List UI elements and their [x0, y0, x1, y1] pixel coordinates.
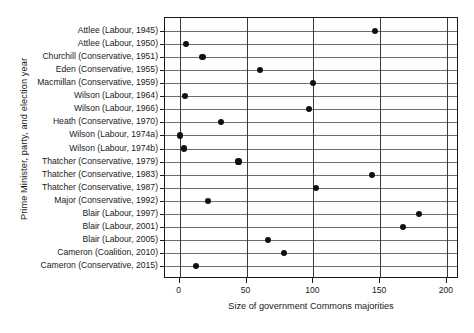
x-axis-tick-labels: 050100150200 [164, 285, 458, 299]
y-axis-tick [160, 122, 165, 123]
category-label: Heath (Conservative, 1970) [0, 116, 158, 126]
x-axis-tick [312, 278, 313, 283]
category-label: Major (Conservative, 1992) [0, 195, 158, 205]
y-axis-tick [160, 57, 165, 58]
category-label: Blair (Labour, 2001) [0, 221, 158, 231]
row-rule [165, 122, 457, 123]
row-rule [165, 70, 457, 71]
y-axis-tick [160, 44, 165, 45]
x-axis-tick-label: 50 [241, 285, 251, 295]
category-label: Wilson (Labour, 1966) [0, 103, 158, 113]
category-label: Cameron (Conservative, 2015) [0, 260, 158, 270]
y-axis-tick [160, 109, 165, 110]
data-point [416, 211, 422, 217]
y-axis-tick [160, 96, 165, 97]
y-axis-tick [160, 214, 165, 215]
x-axis-tick-label: 150 [372, 285, 386, 295]
row-rule [165, 240, 457, 241]
x-axis-tick-label: 200 [439, 285, 453, 295]
x-axis-tick-label: 100 [305, 285, 319, 295]
row-rule [165, 188, 457, 189]
x-axis-tick [179, 278, 180, 283]
category-label: Blair (Labour, 2005) [0, 234, 158, 244]
category-label: Wilson (Labour, 1974b) [0, 143, 158, 153]
data-point [313, 185, 319, 191]
y-axis-tick [160, 253, 165, 254]
row-rule [165, 253, 457, 254]
data-point [183, 41, 189, 47]
row-rule [165, 214, 457, 215]
row-rule [165, 135, 457, 136]
x-gridline [247, 18, 248, 277]
y-axis-tick [160, 188, 165, 189]
x-axis-tick [379, 278, 380, 283]
data-point [400, 224, 406, 230]
y-axis-tick [160, 227, 165, 228]
y-axis-tick [160, 162, 165, 163]
data-point [177, 132, 183, 138]
data-point [218, 119, 224, 125]
y-axis-tick [160, 175, 165, 176]
y-axis-tick [160, 149, 165, 150]
dot-plot-chart: Prime Minister, party, and election year… [0, 0, 474, 333]
data-point [265, 237, 271, 243]
row-rule [165, 162, 457, 163]
category-label: Thatcher (Conservative, 1983) [0, 169, 158, 179]
data-point [306, 106, 312, 112]
x-axis-title: Size of government Commons majorities [164, 301, 458, 311]
row-rule [165, 227, 457, 228]
data-point [281, 250, 287, 256]
y-axis-tick [160, 31, 165, 32]
x-axis-tick [446, 278, 447, 283]
y-axis-tick [160, 240, 165, 241]
category-label: Thatcher (Conservative, 1987) [0, 182, 158, 192]
x-gridline [313, 18, 314, 277]
y-axis-tick [160, 70, 165, 71]
row-rule [165, 57, 457, 58]
category-label: Eden (Conservative, 1955) [0, 64, 158, 74]
x-gridline [380, 18, 381, 277]
data-point [205, 198, 211, 204]
category-label-column: Attlee (Labour, 1945)Attlee (Labour, 195… [0, 17, 158, 278]
data-point [310, 80, 316, 86]
data-point [199, 54, 205, 60]
x-gridline [447, 18, 448, 277]
row-rule [165, 96, 457, 97]
x-axis-ticks [164, 278, 458, 284]
y-axis-tick [160, 201, 165, 202]
data-point [257, 67, 263, 73]
category-label: Macmillan (Conservative, 1959) [0, 77, 158, 87]
category-label: Attlee (Labour, 1945) [0, 25, 158, 35]
category-label: Churchill (Conservative, 1951) [0, 51, 158, 61]
data-point [193, 263, 199, 269]
plot-area [164, 17, 458, 278]
row-rule [165, 31, 457, 32]
data-point [235, 158, 241, 164]
y-axis-tick [160, 83, 165, 84]
category-label: Blair (Labour, 1997) [0, 208, 158, 218]
data-point [369, 172, 375, 178]
category-label: Cameron (Coalition, 2010) [0, 247, 158, 257]
x-axis-tick-label: 0 [176, 285, 181, 295]
y-axis-tick [160, 266, 165, 267]
data-point [181, 145, 187, 151]
x-axis-tick [246, 278, 247, 283]
y-axis-tick [160, 135, 165, 136]
data-point [182, 93, 188, 99]
category-label: Wilson (Labour, 1974a) [0, 129, 158, 139]
row-rule [165, 149, 457, 150]
category-label: Attlee (Labour, 1950) [0, 38, 158, 48]
row-rule [165, 266, 457, 267]
category-label: Thatcher (Conservative, 1979) [0, 156, 158, 166]
row-rule [165, 175, 457, 176]
row-rule [165, 44, 457, 45]
category-label: Wilson (Labour, 1964) [0, 90, 158, 100]
data-point [372, 28, 378, 34]
